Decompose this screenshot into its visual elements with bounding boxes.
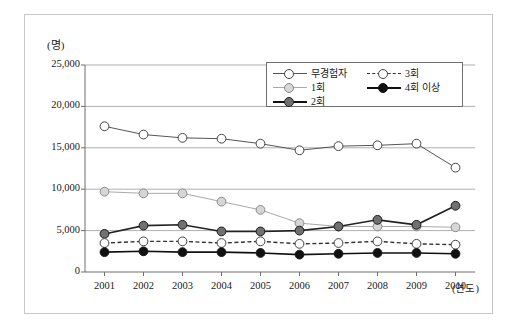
data-point (139, 189, 148, 198)
legend-swatch-dashed-open-circle-icon (367, 68, 401, 80)
legend-label: 4회 이상 (405, 82, 440, 94)
data-point (295, 226, 304, 235)
y-axis-tick-label: 20,000 (24, 99, 80, 110)
data-point (178, 248, 187, 257)
data-point (139, 237, 148, 246)
data-point (217, 134, 226, 143)
data-point (100, 248, 109, 257)
y-axis-tick-label: 0 (24, 265, 80, 276)
data-point (100, 230, 109, 239)
data-point (256, 249, 265, 258)
legend-label: 2회 (311, 96, 325, 108)
data-point (373, 249, 382, 258)
series-line-1 (105, 126, 456, 167)
data-point (217, 197, 226, 206)
legend-swatch-dark-circle-icon (273, 96, 307, 108)
legend-item-1-time[interactable]: 1회 (273, 81, 347, 94)
data-point (412, 220, 421, 229)
data-point (412, 249, 421, 258)
series-line-3 (105, 206, 456, 234)
data-point (334, 142, 343, 151)
legend-label: 1회 (311, 82, 325, 94)
chart-page: (명) 05,00010,00015,00020,00025,000 20012… (0, 0, 518, 328)
data-point (412, 239, 421, 248)
data-point (334, 239, 343, 248)
data-point (100, 187, 109, 196)
legend-column-right: 3회 4회 이상 (367, 67, 440, 95)
data-point (139, 247, 148, 256)
x-axis-caption: (연도) (452, 280, 479, 295)
data-point (139, 130, 148, 139)
data-point (295, 250, 304, 259)
data-point (217, 248, 226, 257)
legend-item-3-times[interactable]: 3회 (367, 67, 440, 80)
data-point (256, 227, 265, 236)
data-point (451, 163, 460, 172)
legend-swatch-open-circle-icon (273, 68, 307, 80)
data-point (334, 249, 343, 258)
legend-swatch-light-circle-icon (273, 82, 307, 94)
data-point (256, 139, 265, 148)
legend-item-2-times[interactable]: 2회 (273, 95, 347, 108)
data-point (100, 122, 109, 131)
data-point (451, 223, 460, 232)
y-axis-tick-label: 15,000 (24, 141, 80, 152)
y-axis-tick-label: 5,000 (24, 224, 80, 235)
chart-legend: 무경험자 1회 2회 (266, 62, 463, 107)
data-point (178, 220, 187, 229)
y-axis-tick-label: 25,000 (24, 58, 80, 69)
data-point (100, 239, 109, 248)
data-point (217, 239, 226, 248)
series-line-5 (105, 251, 456, 254)
legend-item-4-plus-times[interactable]: 4회 이상 (367, 81, 440, 94)
data-point (178, 133, 187, 142)
data-point (373, 141, 382, 150)
data-point (178, 189, 187, 198)
data-point (373, 215, 382, 224)
series-line-4 (105, 241, 456, 244)
legend-column-left: 무경험자 1회 2회 (273, 67, 347, 109)
plot-area (0, 0, 518, 328)
data-point (217, 227, 226, 236)
data-point (451, 249, 460, 258)
data-point (451, 201, 460, 210)
data-point (451, 240, 460, 249)
data-point (256, 206, 265, 215)
legend-label: 무경험자 (311, 68, 347, 80)
legend-label: 3회 (405, 68, 419, 80)
series-line-2 (105, 192, 456, 228)
legend-swatch-black-circle-icon (367, 82, 401, 94)
data-point (334, 222, 343, 231)
data-point (373, 237, 382, 246)
chart-svg (0, 0, 518, 328)
data-point (295, 239, 304, 248)
data-point (256, 237, 265, 246)
data-point (139, 221, 148, 230)
y-axis-tick-label: 10,000 (24, 182, 80, 193)
legend-item-no-experience[interactable]: 무경험자 (273, 67, 347, 80)
data-point (295, 146, 304, 155)
data-point (412, 139, 421, 148)
data-point (178, 237, 187, 246)
